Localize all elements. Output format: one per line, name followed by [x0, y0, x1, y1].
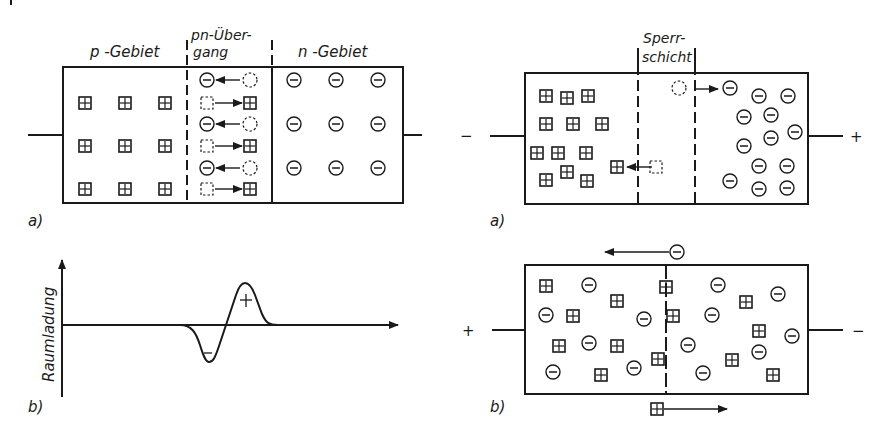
label-n-region: n -Gebiet — [298, 43, 368, 61]
terminal-minus: − — [460, 127, 473, 145]
caption-a-right: a) — [490, 212, 505, 230]
terminal-plus: + — [850, 128, 863, 146]
electron-icons-n-region — [287, 73, 385, 175]
terminal-minus: − — [852, 322, 865, 340]
label-junction-line1: pn-Über- — [190, 26, 252, 43]
terminal-plus: + — [462, 322, 475, 340]
caption-b-left: b) — [28, 398, 43, 416]
figure-a-right: Sperr- schicht − + a) — [460, 30, 863, 230]
figure-b-left: Raumladung b) — [28, 260, 398, 416]
hole-icons-p-region — [79, 97, 171, 195]
figure-b-right: + − b) — [462, 245, 865, 416]
hole-icons — [540, 280, 779, 381]
caption-b-right: b) — [490, 398, 505, 416]
y-axis-label: Raumladung — [40, 287, 58, 382]
electron-icons — [723, 81, 802, 196]
hole-icons — [531, 90, 623, 187]
junction-carrier-transitions — [200, 73, 257, 195]
crystal-box — [63, 67, 403, 203]
label-depletion-line2: schicht — [642, 49, 692, 65]
space-charge-curve — [62, 283, 390, 362]
figure-a-left: p -Gebiet pn-Über- gang n -Gebiet a) — [28, 26, 422, 230]
caption-a-left: a) — [28, 212, 43, 230]
pn-junction-diagram: p -Gebiet pn-Über- gang n -Gebiet a) — [0, 0, 893, 436]
label-p-region: p -Gebiet — [89, 43, 160, 61]
label-junction-line2: gang — [193, 44, 228, 60]
label-depletion-line1: Sperr- — [643, 30, 685, 46]
